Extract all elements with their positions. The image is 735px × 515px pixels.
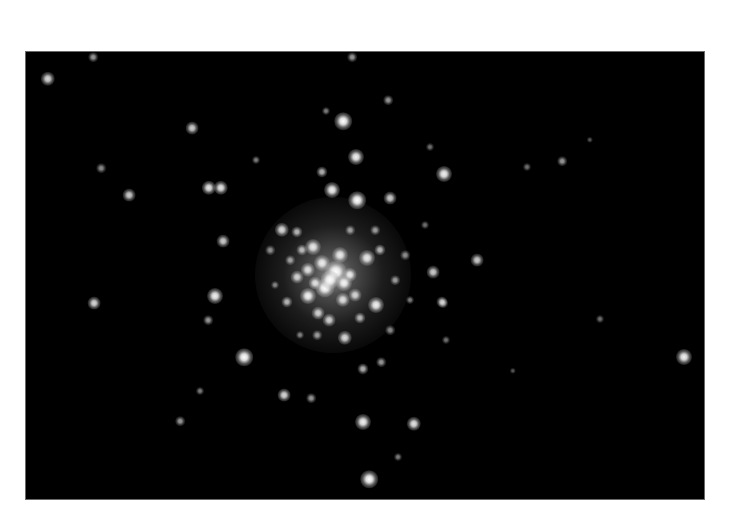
star — [336, 293, 350, 307]
star — [348, 191, 366, 209]
star — [186, 122, 199, 135]
cluster-core-glow — [255, 197, 411, 353]
star — [471, 254, 484, 267]
star — [359, 250, 375, 266]
star — [338, 331, 352, 345]
star — [278, 389, 291, 402]
star — [523, 163, 531, 171]
star — [41, 72, 55, 86]
star — [123, 189, 136, 202]
star — [235, 348, 253, 366]
star — [322, 107, 330, 115]
star — [676, 349, 692, 365]
star — [271, 281, 279, 289]
star — [296, 331, 304, 339]
star — [316, 166, 327, 177]
star — [252, 156, 260, 164]
star — [217, 235, 230, 248]
star — [315, 278, 334, 297]
star — [407, 417, 421, 431]
star — [196, 387, 204, 395]
star — [355, 414, 371, 430]
star — [438, 298, 448, 308]
star — [596, 315, 604, 323]
star — [336, 275, 352, 291]
star — [426, 143, 434, 151]
star — [291, 271, 304, 284]
star — [207, 288, 223, 304]
star — [301, 263, 315, 277]
star — [385, 325, 395, 335]
star — [394, 453, 402, 461]
star — [360, 470, 378, 488]
star — [203, 315, 213, 325]
star — [421, 221, 429, 229]
star — [323, 314, 336, 327]
star — [285, 255, 295, 265]
star — [427, 266, 440, 279]
star — [354, 312, 365, 323]
star — [400, 250, 410, 260]
star-cluster-photo — [26, 52, 704, 499]
star — [305, 239, 321, 255]
star — [383, 95, 393, 105]
star — [510, 368, 516, 374]
star — [390, 275, 400, 285]
star — [345, 225, 355, 235]
star — [88, 297, 101, 310]
star — [96, 163, 106, 173]
star — [88, 52, 98, 62]
star — [324, 182, 340, 198]
star — [587, 137, 593, 143]
star — [312, 330, 322, 340]
star — [436, 296, 447, 307]
star — [314, 255, 330, 271]
star — [406, 296, 414, 304]
star — [557, 156, 567, 166]
star — [214, 181, 228, 195]
star — [202, 181, 216, 195]
star — [320, 270, 339, 289]
star — [347, 52, 357, 62]
star — [296, 244, 307, 255]
star — [309, 277, 322, 290]
star — [384, 192, 397, 205]
star — [436, 166, 452, 182]
star — [325, 261, 347, 283]
star — [265, 245, 275, 255]
star — [306, 393, 316, 403]
star — [291, 226, 302, 237]
star — [300, 288, 316, 304]
star — [334, 112, 352, 130]
star — [374, 244, 385, 255]
star — [332, 247, 348, 263]
star — [312, 307, 325, 320]
star — [348, 149, 364, 165]
star — [343, 268, 357, 282]
star — [376, 357, 386, 367]
star — [370, 225, 380, 235]
star — [349, 289, 362, 302]
star — [275, 223, 289, 237]
star — [281, 296, 292, 307]
page: globular star cluster — [0, 0, 735, 515]
star — [357, 363, 368, 374]
star — [368, 297, 384, 313]
star — [442, 336, 450, 344]
star — [175, 416, 185, 426]
